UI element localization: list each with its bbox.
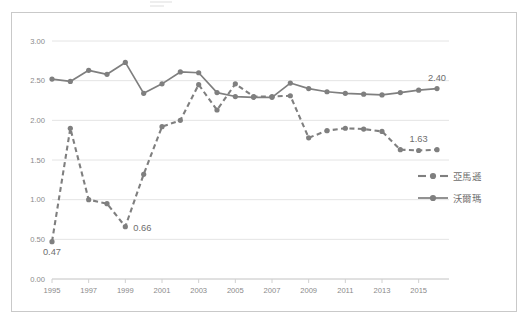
data-point-marker [343,91,348,96]
data-point-marker [398,147,403,152]
chart-screenshot: 0.000.501.001.502.002.503.00199519971999… [0,0,532,336]
x-axis-label: 1999 [117,286,134,295]
data-point-marker [123,60,128,65]
data-point-marker [434,147,439,152]
legend-item-walmart[interactable]: 沃爾瑪 [418,187,504,209]
data-point-marker [123,224,128,229]
data-label: 1.63 [410,134,428,144]
chart-legend: 亞馬遜 沃爾瑪 [418,165,504,209]
legend-dashed-line-icon [418,170,448,182]
data-point-marker [379,92,384,97]
data-point-marker [141,91,146,96]
data-point-marker [434,86,439,91]
legend-label-amazon: 亞馬遜 [453,169,481,183]
data-point-marker [416,148,421,153]
data-point-marker [324,128,329,133]
data-point-marker [178,69,183,74]
x-axis-label: 2015 [410,286,427,295]
series-line-walmart [52,62,437,97]
data-point-marker [306,86,311,91]
data-point-marker [233,94,238,99]
data-point-marker [361,126,366,131]
data-label: 2.40 [428,73,446,83]
data-point-marker [49,239,54,244]
legend-solid-line-icon [418,192,448,204]
data-point-marker [416,88,421,93]
y-axis-label: 2.00 [30,116,45,125]
y-axis-label: 1.00 [30,195,45,204]
data-point-marker [288,80,293,85]
y-axis-label: 0.00 [30,275,45,284]
page-artifact [150,1,210,7]
data-point-marker [233,81,238,86]
data-point-marker [306,135,311,140]
data-point-marker [324,89,329,94]
data-point-marker [86,68,91,73]
data-point-marker [196,82,201,87]
x-axis-label: 1995 [44,286,61,295]
data-point-marker [68,79,73,84]
data-point-marker [214,90,219,95]
data-point-marker [379,129,384,134]
legend-item-amazon[interactable]: 亞馬遜 [418,165,504,187]
y-axis-label: 1.50 [30,156,45,165]
x-axis-label: 2005 [227,286,244,295]
data-label: 0.47 [43,247,61,257]
legend-label-walmart: 沃爾瑪 [453,191,481,205]
data-point-marker [214,107,219,112]
data-point-marker [49,76,54,81]
data-point-marker [104,201,109,206]
y-axis-label: 0.50 [30,235,45,244]
x-axis-label: 2009 [300,286,317,295]
x-axis-label: 2001 [154,286,171,295]
y-axis-label: 2.50 [30,76,45,85]
data-point-marker [178,118,183,123]
x-axis-label: 2013 [374,286,391,295]
plot-area: 0.000.501.001.502.002.503.00199519971999… [12,13,518,313]
data-point-marker [86,197,91,202]
series-line-amazon [52,84,437,242]
x-axis-label: 1997 [80,286,97,295]
line-chart: 0.000.501.001.502.002.503.00199519971999… [12,13,518,313]
data-point-marker [343,126,348,131]
data-point-marker [269,95,274,100]
chart-card: 0.000.501.001.502.002.503.00199519971999… [11,12,517,312]
y-axis-label: 3.00 [30,37,45,46]
data-point-marker [288,93,293,98]
x-axis-label: 2003 [190,286,207,295]
data-point-marker [68,126,73,131]
data-point-marker [141,172,146,177]
data-point-marker [361,92,366,97]
data-point-marker [159,81,164,86]
data-label: 0.66 [133,223,151,233]
data-point-marker [251,95,256,100]
data-point-marker [104,72,109,77]
data-point-marker [398,90,403,95]
x-axis-label: 2011 [337,286,353,295]
x-axis-label: 2007 [264,286,281,295]
data-point-marker [159,124,164,129]
data-point-marker [196,70,201,75]
